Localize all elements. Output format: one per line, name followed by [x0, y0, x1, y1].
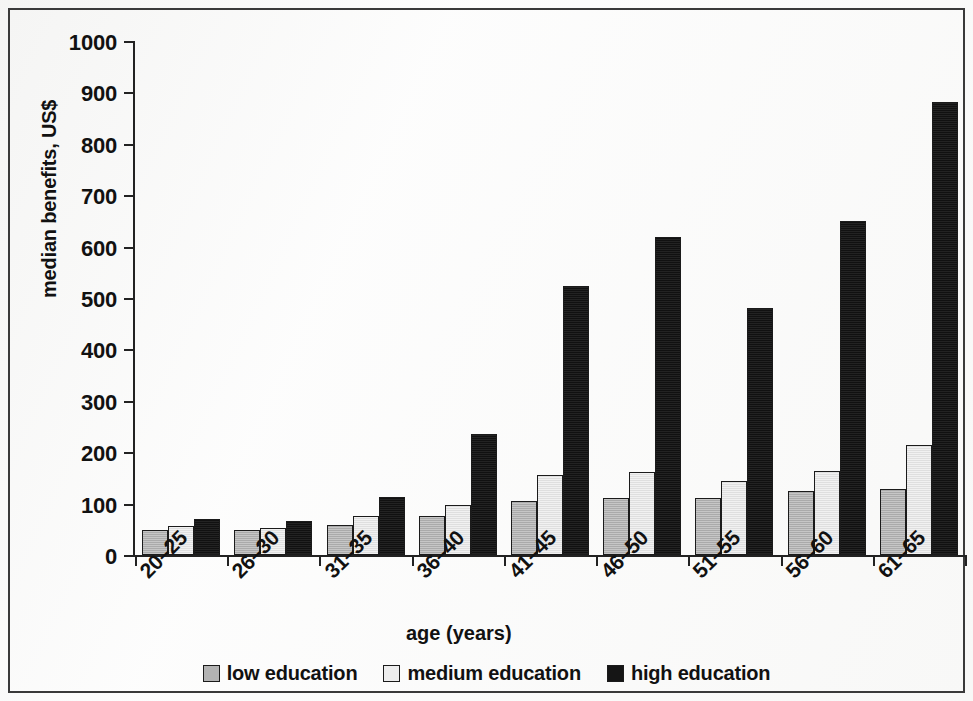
y-axis-tick-label: 200	[81, 441, 117, 467]
bar-high[interactable]	[563, 286, 589, 555]
y-axis-tick-label: 900	[81, 81, 117, 107]
y-axis-tick: 0	[124, 555, 135, 557]
y-axis-tick-label: 700	[81, 184, 117, 210]
chart-legend: low educationmedium educationhigh educat…	[10, 662, 963, 685]
legend-swatch-icon	[383, 665, 400, 682]
bar-high[interactable]	[471, 434, 497, 555]
y-axis-tick: 200	[124, 452, 135, 454]
y-axis-tick: 100	[124, 504, 135, 506]
bar-high[interactable]	[747, 308, 773, 555]
bar-high[interactable]	[194, 519, 220, 555]
y-axis-tick: 800	[124, 144, 135, 146]
y-axis-tick-label: 800	[81, 133, 117, 159]
bar-groups	[135, 41, 965, 555]
legend-label: high education	[631, 662, 770, 685]
bar-group	[596, 41, 688, 555]
y-axis-tick: 600	[124, 247, 135, 249]
legend-item[interactable]: medium education	[383, 662, 581, 685]
bar-high[interactable]	[379, 497, 405, 555]
bar-group	[873, 41, 965, 555]
figure-root: median benefits, US$ 1000900800700600500…	[0, 0, 973, 701]
y-axis-tick-label: 500	[81, 287, 117, 313]
legend-label: low education	[227, 662, 358, 685]
y-axis-tick-label: 400	[81, 338, 117, 364]
y-axis-tick-label: 300	[81, 390, 117, 416]
y-axis-tick-label: 0	[105, 544, 117, 570]
y-axis-tick-label: 600	[81, 236, 117, 262]
x-axis-tick	[965, 555, 967, 566]
bar-group	[227, 41, 319, 555]
bar-high[interactable]	[286, 521, 312, 555]
legend-item[interactable]: low education	[203, 662, 358, 685]
y-axis-title: median benefits, US$	[38, 100, 61, 298]
y-axis-tick: 700	[124, 195, 135, 197]
bar-high[interactable]	[655, 237, 681, 555]
chart-border-frame: median benefits, US$ 1000900800700600500…	[8, 8, 965, 693]
legend-swatch-icon	[607, 665, 624, 682]
y-axis-tick: 1000	[124, 41, 135, 43]
bar-group	[688, 41, 780, 555]
bar-group	[135, 41, 227, 555]
bar-high[interactable]	[840, 221, 866, 555]
plot-area: 10009008007006005004003002001000	[133, 41, 965, 557]
bar-high[interactable]	[932, 102, 958, 555]
y-axis-tick-label: 100	[81, 493, 117, 519]
legend-item[interactable]: high education	[607, 662, 770, 685]
y-axis-tick: 500	[124, 298, 135, 300]
bar-group	[781, 41, 873, 555]
y-axis-tick-label: 1000	[69, 30, 117, 56]
y-axis-tick: 900	[124, 92, 135, 94]
y-axis-tick: 400	[124, 349, 135, 351]
x-axis-title: age (years)	[406, 622, 512, 645]
bar-group	[412, 41, 504, 555]
legend-label: medium education	[407, 662, 581, 685]
legend-swatch-icon	[203, 665, 220, 682]
bar-group	[504, 41, 596, 555]
y-axis-tick: 300	[124, 401, 135, 403]
bar-group	[319, 41, 411, 555]
